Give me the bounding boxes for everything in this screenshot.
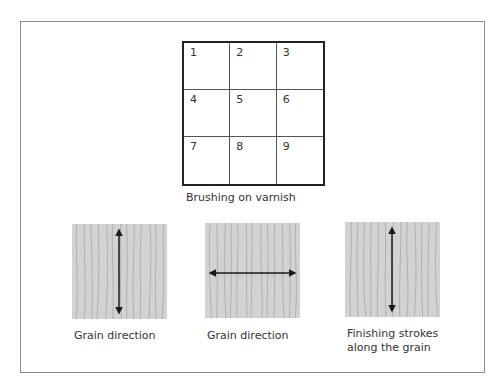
- panel-1-caption: Grain direction: [74, 329, 156, 343]
- panel-3-caption: Finishing strokes along the grain: [347, 327, 438, 355]
- wood-grain-svg: [72, 224, 167, 319]
- caption-line: along the grain: [347, 341, 438, 355]
- caption-line: Grain direction: [207, 329, 289, 343]
- cell-number: 3: [283, 46, 290, 59]
- brushing-grid: 1 2 3 4 5 6 7 8 9: [182, 41, 325, 186]
- grid-cell-9: 9: [277, 137, 323, 184]
- grid-cell-8: 8: [230, 137, 276, 184]
- wood-panel-1: [72, 224, 167, 319]
- grid-cell-1: 1: [184, 43, 230, 90]
- wood-grain-svg: [205, 223, 300, 318]
- grid-cell-6: 6: [277, 90, 323, 137]
- wood-panel-3: [345, 222, 440, 317]
- wood-surface: [205, 223, 300, 318]
- cell-number: 9: [283, 140, 290, 153]
- cell-number: 5: [236, 93, 243, 106]
- cell-number: 8: [236, 140, 243, 153]
- cell-number: 7: [190, 140, 197, 153]
- grid-cell-5: 5: [230, 90, 276, 137]
- grid-caption: Brushing on varnish: [186, 191, 296, 204]
- wood-grain-svg: [345, 222, 440, 317]
- cell-number: 1: [190, 46, 197, 59]
- grid-cell-3: 3: [277, 43, 323, 90]
- wood-panel-2: [205, 223, 300, 318]
- cell-number: 6: [283, 93, 290, 106]
- cell-number: 4: [190, 93, 197, 106]
- grid-cell-2: 2: [230, 43, 276, 90]
- grid-cell-7: 7: [184, 137, 230, 184]
- grid-cell-4: 4: [184, 90, 230, 137]
- caption-line: Finishing strokes: [347, 327, 438, 341]
- panel-2-caption: Grain direction: [207, 329, 289, 343]
- cell-number: 2: [236, 46, 243, 59]
- caption-line: Grain direction: [74, 329, 156, 343]
